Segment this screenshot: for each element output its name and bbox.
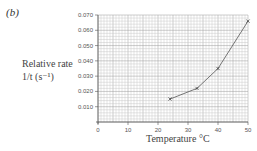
line-chart: 0.0100.0200.0300.0400.0500.0600.07001020…	[0, 0, 257, 151]
x-tick-label: 50	[245, 127, 252, 133]
y-tick-label: 0.070	[78, 12, 94, 18]
x-tick-label: 30	[185, 127, 192, 133]
y-tick-label: 0.020	[78, 88, 94, 94]
x-tick-label: 0	[96, 127, 100, 133]
y-tick-label: 0.050	[78, 43, 94, 49]
x-tick-label: 40	[215, 127, 222, 133]
y-tick-label: 0.060	[78, 27, 94, 33]
x-tick-label: 10	[125, 127, 132, 133]
y-tick-label: 0.040	[78, 58, 94, 64]
y-tick-label: 0.010	[78, 104, 94, 110]
x-tick-label: 20	[155, 127, 162, 133]
y-tick-label: 0.030	[78, 73, 94, 79]
